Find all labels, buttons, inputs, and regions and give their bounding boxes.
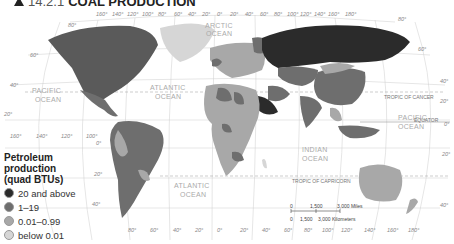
svg-text:80°: 80° bbox=[274, 11, 283, 17]
svg-text:120°: 120° bbox=[61, 133, 73, 139]
svg-text:80°: 80° bbox=[158, 11, 167, 17]
ocean-label: ATLANTIC bbox=[150, 84, 186, 91]
north-america bbox=[48, 26, 158, 102]
svg-text:80°: 80° bbox=[128, 227, 137, 233]
svg-text:0°: 0° bbox=[217, 227, 223, 233]
ocean-label: INDIAN bbox=[302, 146, 328, 153]
new-zealand bbox=[406, 198, 418, 214]
svg-text:160°: 160° bbox=[10, 133, 22, 139]
ocean-label: OCEAN bbox=[180, 191, 206, 198]
svg-text:100°: 100° bbox=[86, 133, 98, 139]
svg-text:1,500: 1,500 bbox=[300, 216, 313, 222]
china bbox=[314, 68, 365, 105]
svg-text:ATLANTICOCEAN: ATLANTICOCEAN bbox=[174, 182, 210, 198]
svg-text:120°: 120° bbox=[127, 11, 139, 17]
svg-text:20°: 20° bbox=[201, 11, 211, 17]
scale-bar: 0 1,500 3,000 Miles 0 1,500 3,000 Kilome… bbox=[290, 203, 363, 222]
svg-text:20°: 20° bbox=[194, 227, 204, 233]
svg-text:3,000 Kilometers: 3,000 Kilometers bbox=[318, 216, 356, 222]
svg-text:40°: 40° bbox=[188, 11, 197, 17]
svg-text:0: 0 bbox=[290, 216, 293, 222]
legend: Petroleum production (quad BTUs) 20 and … bbox=[4, 152, 94, 241]
australia bbox=[359, 164, 402, 201]
svg-text:0°: 0° bbox=[96, 140, 102, 146]
ocean-label: OCEAN bbox=[155, 93, 181, 100]
india bbox=[300, 96, 322, 128]
svg-text:0: 0 bbox=[290, 203, 293, 209]
svg-text:60°: 60° bbox=[150, 227, 159, 233]
svg-text:INDIANOCEAN: INDIANOCEAN bbox=[302, 146, 328, 162]
legend-item: 1–19 bbox=[4, 201, 94, 213]
svg-text:160°: 160° bbox=[328, 11, 340, 17]
ocean-label: OCEAN bbox=[398, 123, 424, 130]
tropic-of-capricorn-label: TROPIC OF CAPRICORN bbox=[292, 178, 351, 184]
svg-text:20°: 20° bbox=[93, 171, 103, 177]
svg-text:PACIFICOCEAN: PACIFICOCEAN bbox=[32, 87, 61, 103]
svg-text:140°: 140° bbox=[364, 227, 376, 233]
svg-text:60°: 60° bbox=[260, 11, 269, 17]
svg-text:20°: 20° bbox=[439, 98, 449, 104]
tropic-of-cancer-label: TROPIC OF CANCER bbox=[384, 94, 434, 100]
top-longitude-labels: 160° 140° 120° 100° 80° 60° 40° 20° 0° 2… bbox=[96, 11, 357, 17]
svg-text:20°: 20° bbox=[229, 11, 239, 17]
ocean-label: OCEAN bbox=[35, 96, 61, 103]
ocean-label: OCEAN bbox=[302, 155, 328, 162]
svg-text:40°: 40° bbox=[173, 227, 182, 233]
svg-text:100°: 100° bbox=[322, 227, 334, 233]
ocean-label: ATLANTIC bbox=[174, 182, 210, 189]
ocean-label: ARCTIC bbox=[205, 22, 233, 29]
svg-text:3,000 Miles: 3,000 Miles bbox=[337, 203, 363, 209]
svg-text:140°: 140° bbox=[112, 11, 124, 17]
swatch-dark-icon bbox=[4, 188, 14, 198]
ocean-label: PACIFIC bbox=[32, 87, 61, 94]
svg-text:180°: 180° bbox=[408, 227, 420, 233]
svg-text:60°: 60° bbox=[30, 52, 39, 58]
legend-item: 0.01–0.99 bbox=[4, 215, 94, 227]
svg-text:ARCTICOCEAN: ARCTICOCEAN bbox=[205, 22, 233, 37]
ocean-label: OCEAN bbox=[206, 30, 232, 37]
svg-text:140°: 140° bbox=[36, 133, 48, 139]
swatch-medium-dark-icon bbox=[4, 202, 14, 212]
svg-text:40°: 40° bbox=[10, 82, 19, 88]
svg-text:40°: 40° bbox=[440, 202, 449, 208]
iran bbox=[268, 86, 290, 101]
legend-title: Petroleum production (quad BTUs) bbox=[4, 152, 94, 185]
svg-text:120°: 120° bbox=[341, 227, 353, 233]
svg-text:20°: 20° bbox=[441, 151, 451, 157]
legend-item: below 0.01 bbox=[4, 229, 94, 241]
svg-text:60°: 60° bbox=[418, 46, 427, 52]
svg-text:40°: 40° bbox=[440, 78, 449, 84]
svg-text:100°: 100° bbox=[287, 11, 299, 17]
svg-text:40°: 40° bbox=[245, 11, 254, 17]
svg-text:20°: 20° bbox=[3, 111, 13, 117]
svg-text:100°: 100° bbox=[142, 11, 154, 17]
svg-text:160°: 160° bbox=[387, 227, 399, 233]
svg-text:180°: 180° bbox=[345, 11, 357, 17]
svg-text:0°: 0° bbox=[444, 121, 450, 127]
southeast-asia bbox=[330, 108, 342, 122]
svg-text:140°: 140° bbox=[314, 11, 326, 17]
svg-text:60°: 60° bbox=[284, 227, 293, 233]
swatch-medium-light-icon bbox=[4, 216, 14, 226]
svg-text:120°: 120° bbox=[300, 11, 312, 17]
kazakhstan bbox=[278, 66, 318, 86]
svg-text:1,500: 1,500 bbox=[310, 203, 323, 209]
madagascar bbox=[262, 159, 267, 168]
legend-item: 20 and above bbox=[4, 187, 94, 199]
equator-label: EQUATOR bbox=[414, 117, 439, 123]
swatch-light-icon bbox=[4, 230, 14, 240]
svg-text:0°: 0° bbox=[217, 11, 223, 17]
svg-text:80°: 80° bbox=[304, 227, 313, 233]
svg-text:80°: 80° bbox=[398, 16, 407, 22]
svg-text:80°: 80° bbox=[68, 22, 77, 28]
svg-text:60°: 60° bbox=[174, 11, 183, 17]
svg-text:160°: 160° bbox=[96, 11, 108, 17]
russia bbox=[262, 25, 410, 68]
svg-text:20°: 20° bbox=[239, 227, 249, 233]
indonesia bbox=[338, 126, 380, 139]
svg-text:40°: 40° bbox=[262, 227, 271, 233]
